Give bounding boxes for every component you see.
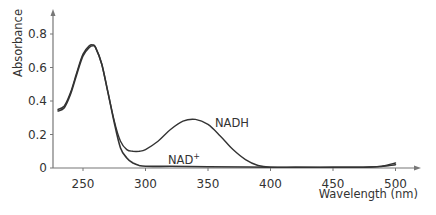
x-tick-label: 250 <box>72 177 95 191</box>
y-axis-title: Absorbance <box>11 9 25 77</box>
y-tick-label: 0 <box>39 161 47 175</box>
y-tick-label: 0.4 <box>28 94 47 108</box>
x-tick-label: 400 <box>259 177 282 191</box>
y-axis-arrow-icon <box>51 9 56 16</box>
y-tick-label: 0.6 <box>28 61 47 75</box>
y-tick-label: 0.2 <box>28 128 47 142</box>
axes <box>51 9 422 171</box>
x-axis-title: Wavelength (nm) <box>319 187 418 201</box>
series-line-nadh <box>58 45 396 168</box>
absorbance-spectrum-chart: 25030035040045050000.20.40.60.8 Absorban… <box>0 0 436 215</box>
series-label-nadh: NADH <box>215 116 249 130</box>
nad-text: NAD <box>168 153 193 167</box>
data-series <box>58 45 396 168</box>
x-tick-label: 300 <box>134 177 157 191</box>
y-tick-label: 0.8 <box>28 27 47 41</box>
x-axis-arrow-icon <box>414 166 421 171</box>
nad-superscript: + <box>193 152 200 161</box>
series-line-nadplus <box>58 45 396 167</box>
x-tick-label: 350 <box>197 177 220 191</box>
series-label-nad: NAD+ <box>168 152 200 167</box>
